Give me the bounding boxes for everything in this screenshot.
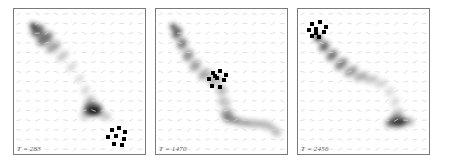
velocity-vector <box>357 51 361 54</box>
velocity-vector <box>63 139 68 140</box>
velocity-vector <box>403 138 407 140</box>
velocity-vector <box>422 138 426 140</box>
velocity-vector <box>385 110 390 111</box>
velocity-vector <box>243 81 248 82</box>
panel-plot-area: T = 2456 <box>298 9 429 154</box>
velocity-vector <box>422 62 427 63</box>
velocity-vector <box>319 101 324 102</box>
gas-blob <box>390 107 405 120</box>
velocity-vector <box>82 91 87 92</box>
velocity-vector <box>205 71 209 73</box>
velocity-vector <box>366 99 370 102</box>
gas-blob <box>170 25 184 40</box>
gas-blob <box>96 109 112 121</box>
gas-blob <box>34 29 55 49</box>
velocity-vector <box>186 90 191 92</box>
velocity-vector <box>301 51 305 53</box>
velocity-vector <box>158 42 162 44</box>
velocity-vector-grid <box>14 9 145 154</box>
velocity-vector <box>168 119 173 120</box>
velocity-vector <box>101 129 105 131</box>
velocity-vector <box>233 90 237 92</box>
velocity-vector <box>224 81 229 82</box>
velocity-vector <box>252 22 256 25</box>
velocity-vector <box>45 71 49 73</box>
velocity-vector <box>110 148 114 151</box>
velocity-vector <box>233 80 237 82</box>
velocity-vector <box>110 81 114 83</box>
velocity-vector <box>214 62 219 63</box>
velocity-vector <box>177 91 182 92</box>
velocity-vector <box>129 148 133 151</box>
velocity-vector <box>394 22 398 25</box>
star-particle <box>224 73 228 77</box>
gas-blob <box>74 73 86 85</box>
velocity-vector <box>92 148 96 151</box>
gas-blob <box>388 116 407 128</box>
velocity-vector <box>177 42 182 44</box>
velocity-vector <box>338 119 342 121</box>
velocity-vector <box>252 51 256 54</box>
velocity-vector <box>233 62 238 63</box>
velocity-vector <box>271 129 276 130</box>
velocity-vector <box>215 90 220 92</box>
velocity-vector <box>63 71 67 73</box>
velocity-vector <box>252 33 257 34</box>
velocity-vector <box>177 101 182 102</box>
velocity-vector <box>17 109 21 112</box>
velocity-vector <box>110 119 114 121</box>
velocity-vector <box>168 23 173 24</box>
velocity-vector <box>385 71 389 73</box>
star-particle <box>112 142 116 146</box>
velocity-vector <box>73 90 78 92</box>
velocity-vector <box>403 110 408 112</box>
velocity-vector <box>394 129 399 130</box>
velocity-vector <box>376 148 380 151</box>
velocity-vector <box>101 110 106 111</box>
gas-blob <box>333 56 350 72</box>
velocity-vector <box>243 110 248 111</box>
gas-blob <box>196 66 213 82</box>
velocity-vector <box>403 62 408 63</box>
star-particle <box>218 85 222 89</box>
velocity-vector <box>271 148 275 151</box>
velocity-vector <box>177 13 181 15</box>
velocity-vector <box>129 110 134 111</box>
velocity-vector <box>82 42 86 44</box>
simulation-figure: T = 283T = 1470T = 2456 <box>0 0 450 164</box>
velocity-vector <box>301 138 305 140</box>
gas-blob <box>44 39 62 55</box>
velocity-vector <box>243 32 247 34</box>
velocity-vector <box>319 62 324 63</box>
velocity-vector <box>101 99 105 102</box>
velocity-vector <box>44 149 49 150</box>
velocity-vector <box>422 110 426 112</box>
velocity-vector <box>101 91 106 92</box>
star-particle <box>322 30 326 34</box>
velocity-vector <box>319 80 323 83</box>
velocity-vector <box>138 110 142 112</box>
velocity-vector <box>91 13 96 14</box>
velocity-vector <box>129 90 133 92</box>
velocity-vector <box>187 100 191 102</box>
star-particle <box>215 76 219 80</box>
velocity-vector <box>35 101 40 102</box>
velocity-vector <box>366 71 370 73</box>
velocity-vector <box>271 13 276 14</box>
velocity-vector <box>224 13 229 14</box>
velocity-vector <box>357 148 361 150</box>
velocity-vector <box>280 81 285 82</box>
velocity-vector <box>205 42 210 44</box>
velocity-vector <box>224 99 228 102</box>
star-particle <box>314 27 318 31</box>
velocity-vector <box>252 43 257 44</box>
velocity-vector <box>280 138 284 140</box>
velocity-vector <box>63 61 67 63</box>
velocity-vector <box>35 62 40 63</box>
velocity-vector <box>394 51 398 54</box>
velocity-vector <box>375 33 380 34</box>
velocity-vector <box>16 42 20 44</box>
velocity-vector <box>357 119 361 121</box>
velocity-vector <box>214 72 219 73</box>
velocity-vector <box>328 120 333 121</box>
